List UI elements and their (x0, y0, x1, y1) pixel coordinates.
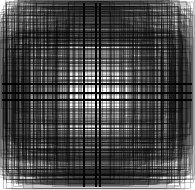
abstract-line-pattern (0, 0, 195, 190)
line-grid-graphic (0, 0, 195, 190)
